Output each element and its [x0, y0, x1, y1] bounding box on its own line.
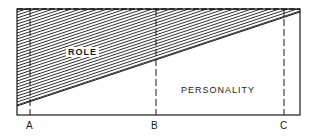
- role-label: ROLE: [66, 47, 99, 57]
- marker-label-c: C: [280, 120, 288, 131]
- role-personality-diagram: [0, 0, 310, 136]
- marker-label-b: B: [151, 120, 159, 131]
- marker-label-a: A: [26, 120, 34, 131]
- personality-label: PERSONALITY: [181, 85, 255, 95]
- boundary-line: [17, 12, 300, 106]
